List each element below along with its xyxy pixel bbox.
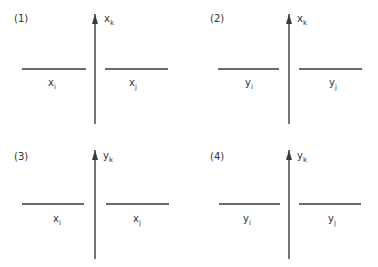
panel-label: (1) xyxy=(14,13,28,24)
left-label: xi xyxy=(53,213,61,227)
right-label: yj xyxy=(329,77,337,91)
panel-2: (2) xk yi yj xyxy=(210,13,362,124)
panel-4: (4) yk yi yj xyxy=(210,150,361,259)
panel-1: (1) xk xi xj xyxy=(14,13,168,124)
arrow-head-icon xyxy=(92,14,98,24)
right-label: yj xyxy=(328,213,336,227)
panel-label: (2) xyxy=(210,13,224,24)
arrow-head-icon xyxy=(286,14,292,24)
left-label: yi xyxy=(243,213,251,227)
axis-label: yk xyxy=(103,150,114,164)
panel-label: (4) xyxy=(210,151,224,162)
arrow-head-icon xyxy=(286,150,292,160)
axis-label: xk xyxy=(104,13,115,27)
diagram-canvas: (1) xk xi xj (2) xk yi yj (3) yk xi xj (… xyxy=(0,0,378,267)
axis-label: xk xyxy=(297,13,308,27)
axis-label: yk xyxy=(297,150,308,164)
arrow-head-icon xyxy=(92,150,98,160)
right-label: xj xyxy=(133,213,141,227)
panel-3: (3) yk xi xj xyxy=(14,150,169,259)
right-label: xj xyxy=(129,77,137,91)
left-label: xi xyxy=(48,77,56,91)
left-label: yi xyxy=(245,77,253,91)
panel-label: (3) xyxy=(14,151,28,162)
